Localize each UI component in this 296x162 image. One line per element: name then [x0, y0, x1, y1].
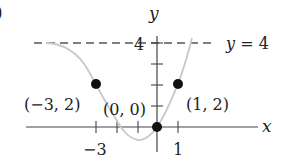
figure-label-fragment: )	[0, 2, 3, 22]
y-axis-label: y	[148, 3, 159, 23]
function-curve	[46, 38, 192, 140]
x-tick-label-neg3: −3	[83, 140, 107, 159]
asymptote-label: y = 4	[225, 34, 269, 53]
point-neg3-2	[91, 79, 101, 89]
point-label-origin: (0, 0)	[103, 100, 146, 119]
x-axis-label: x	[262, 116, 272, 136]
graph-figure: ) y = 4 x y 4 −3 1 (−3, 2) (0, 0) (1, 2)	[0, 0, 296, 162]
point-label-1-2: (1, 2)	[186, 95, 229, 114]
point-origin	[152, 122, 162, 132]
x-tick-label-1: 1	[173, 140, 183, 159]
y-tick-label-4: 4	[134, 35, 144, 54]
point-label-neg3-2: (−3, 2)	[24, 95, 80, 114]
point-1-2	[173, 79, 183, 89]
